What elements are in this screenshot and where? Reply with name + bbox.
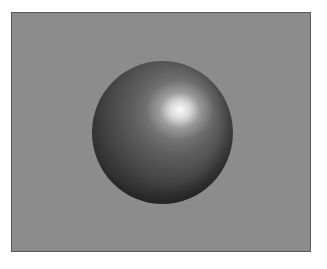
shaded-sphere <box>92 61 233 204</box>
